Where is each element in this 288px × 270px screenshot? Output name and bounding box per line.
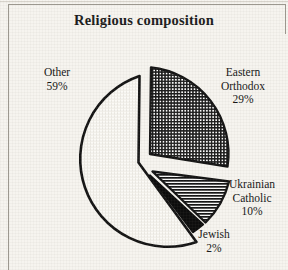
chart-title: Religious composition [0, 12, 288, 29]
pie-label-eastern-orthodox-name2: Orthodox [205, 80, 281, 94]
scan-frame-right-border [285, 4, 286, 34]
chart-page: Religious composition [0, 0, 288, 270]
pie-label-eastern-orthodox-name1: Eastern [205, 66, 281, 80]
pie-label-eastern-orthodox: Eastern Orthodox 29% [205, 66, 281, 107]
scan-frame-top-edge [0, 1, 288, 2]
pie-label-ukrainian-catholic-name1: Ukrainian [218, 178, 286, 192]
scan-frame-top-border [8, 4, 286, 5]
scan-frame-left-border [8, 4, 9, 270]
pie-label-other-value: 59% [24, 80, 90, 94]
pie-label-ukrainian-catholic-value: 10% [218, 205, 286, 219]
pie-label-jewish: Jewish 2% [186, 228, 242, 255]
pie-label-ukrainian-catholic-name2: Catholic [218, 192, 286, 206]
pie-label-other: Other 59% [24, 66, 90, 93]
pie-label-jewish-name: Jewish [186, 228, 242, 242]
pie-chart [0, 0, 288, 270]
pie-label-other-name: Other [24, 66, 90, 80]
pie-label-ukrainian-catholic: Ukrainian Catholic 10% [218, 178, 286, 219]
pie-label-eastern-orthodox-value: 29% [205, 93, 281, 107]
pie-label-jewish-value: 2% [186, 242, 242, 256]
